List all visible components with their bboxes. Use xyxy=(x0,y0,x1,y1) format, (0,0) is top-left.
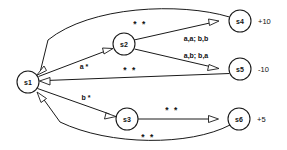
edge-path-s1-to-s2 xyxy=(39,51,108,77)
edge-label-s5-to-s1: * * xyxy=(123,65,136,75)
edge-label-s4-to-s1: * * xyxy=(133,19,146,29)
node-s6[interactable]: s6 xyxy=(228,108,250,130)
node-s1[interactable]: s1 xyxy=(17,71,39,93)
edge-s5-to-s1 xyxy=(40,74,230,86)
edge-label-s6-to-s1: * * xyxy=(141,132,154,142)
node-s2-label: s2 xyxy=(120,41,128,48)
edge-label-s1-to-s2: a * xyxy=(80,63,89,70)
reward-label-s4: +10 xyxy=(258,17,271,26)
reward-label-s5: -10 xyxy=(258,65,269,74)
node-s3-label: s3 xyxy=(123,116,131,123)
edge-label-s2-to-s5: a,b; b,a xyxy=(184,52,209,60)
edge-s3-to-s6 xyxy=(138,116,219,123)
edge-label-s2-to-s4: a,a; b,b xyxy=(184,35,209,43)
edge-path-s1-to-s3 xyxy=(38,89,110,115)
arrow-head-s2-to-s5 xyxy=(208,65,220,71)
arrow-head-s5-to-s1 xyxy=(40,78,51,86)
node-s5-label: s5 xyxy=(236,66,244,73)
arrow-head-s2-to-s4 xyxy=(209,19,220,26)
node-s1-label: s1 xyxy=(24,79,32,86)
arrow-head-s3-to-s6 xyxy=(209,116,219,123)
state-diagram: s1 s2 s3 s4 s5 s6 +10 -10 +5 * * a * xyxy=(0,0,287,150)
arrow-head-s1-to-s2 xyxy=(103,48,114,54)
diagram-canvas: s1 s2 s3 s4 s5 s6 +10 -10 +5 * * a * xyxy=(0,0,287,150)
arrow-head-s1-to-s3 xyxy=(105,113,117,119)
node-s3[interactable]: s3 xyxy=(116,108,138,130)
edge-label-s1-to-s3: b * xyxy=(82,94,91,101)
reward-label-s6: +5 xyxy=(257,115,266,124)
node-s2[interactable]: s2 xyxy=(113,33,135,55)
edge-path-s5-to-s1 xyxy=(46,74,230,81)
node-s5[interactable]: s5 xyxy=(229,58,251,80)
edge-label-s3-to-s6: * * xyxy=(165,105,178,115)
edge-s1-to-s2 xyxy=(39,48,114,77)
edge-s1-to-s3 xyxy=(38,89,117,120)
node-s4-label: s4 xyxy=(236,18,244,25)
node-s6-label: s6 xyxy=(235,116,243,123)
node-s4[interactable]: s4 xyxy=(229,10,251,32)
